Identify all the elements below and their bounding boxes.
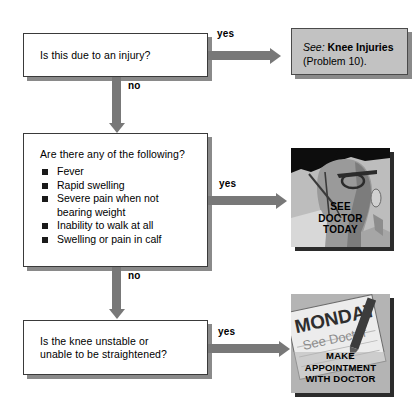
edge-label-yes-2: yes bbox=[219, 178, 236, 189]
no-arrow-2 bbox=[112, 267, 121, 319]
caption-line: TODAY bbox=[291, 224, 390, 236]
symptom-label: Fever bbox=[57, 165, 84, 177]
picture-make-appointment[interactable]: MONDAY See Doctor MAKE APPOINTMENT WITH … bbox=[291, 294, 390, 393]
flowchart-canvas: Is this due to an injury? yes See: Knee … bbox=[0, 0, 420, 417]
arrow-head bbox=[279, 341, 290, 357]
question-box-1[interactable]: Is this due to an injury? bbox=[23, 33, 208, 77]
question-box-2[interactable]: Are there any of the following? Fever Ra… bbox=[23, 133, 208, 267]
bullet-square-icon bbox=[42, 183, 48, 189]
picture-caption-2: MAKE APPOINTMENT WITH DOCTOR bbox=[291, 350, 390, 385]
question-box-3[interactable]: Is the knee unstable or unable to be str… bbox=[23, 320, 208, 375]
reference-detail: (Problem 10). bbox=[303, 55, 367, 67]
arrow-shaft bbox=[208, 196, 276, 205]
edge-label-no-2: no bbox=[128, 270, 141, 281]
arrow-head bbox=[270, 48, 281, 64]
list-item: Severe pain when not bearing weight bbox=[40, 192, 161, 219]
arrow-shaft bbox=[112, 77, 121, 123]
bullet-square-icon bbox=[42, 196, 48, 202]
reference-lead: See: bbox=[303, 41, 325, 53]
question-1-text: Is this due to an injury? bbox=[40, 49, 150, 62]
reference-text: See: Knee Injuries (Problem 10). bbox=[303, 41, 393, 68]
picture-see-doctor-today[interactable]: SEE DOCTOR TODAY bbox=[291, 148, 390, 247]
yes-arrow-3 bbox=[208, 344, 290, 353]
arrow-head bbox=[109, 123, 125, 133]
reference-topic: Knee Injuries bbox=[328, 41, 394, 53]
bullet-square-icon bbox=[42, 169, 48, 175]
list-item: Inability to walk at all bbox=[40, 219, 161, 233]
yes-arrow-2 bbox=[208, 196, 287, 205]
question-3-text: Is the knee unstable or unable to be str… bbox=[40, 335, 167, 361]
arrow-shaft bbox=[112, 267, 121, 309]
caption-line: APPOINTMENT bbox=[291, 362, 390, 374]
yes-arrow-1 bbox=[208, 51, 281, 60]
edge-label-yes-3: yes bbox=[218, 326, 235, 337]
symptom-label: Swelling or pain in calf bbox=[57, 233, 161, 245]
reference-box-knee-injuries[interactable]: See: Knee Injuries (Problem 10). bbox=[291, 28, 408, 75]
arrow-shaft bbox=[208, 51, 270, 60]
list-item: Fever bbox=[40, 165, 161, 179]
picture-caption-1: SEE DOCTOR TODAY bbox=[291, 201, 390, 236]
caption-line: WITH DOCTOR bbox=[291, 373, 390, 385]
no-arrow-1 bbox=[112, 77, 121, 133]
question-2-prompt: Are there any of the following? bbox=[40, 148, 185, 161]
list-item: Swelling or pain in calf bbox=[40, 233, 161, 247]
arrow-head bbox=[109, 309, 125, 319]
list-item: Rapid swelling bbox=[40, 179, 161, 193]
caption-line: DOCTOR bbox=[291, 213, 390, 225]
symptom-label: Rapid swelling bbox=[57, 179, 125, 191]
symptom-label: Severe pain when not bearing weight bbox=[57, 192, 159, 218]
caption-line: MAKE bbox=[291, 350, 390, 362]
edge-label-yes-1: yes bbox=[217, 28, 234, 39]
caption-line: SEE bbox=[291, 201, 390, 213]
edge-label-no-1: no bbox=[128, 80, 141, 91]
bullet-square-icon bbox=[42, 223, 48, 229]
bullet-square-icon bbox=[42, 237, 48, 243]
arrow-head bbox=[276, 193, 287, 209]
arrow-shaft bbox=[208, 344, 279, 353]
symptom-list: Fever Rapid swelling Severe pain when no… bbox=[40, 165, 161, 247]
symptom-label: Inability to walk at all bbox=[57, 219, 153, 231]
